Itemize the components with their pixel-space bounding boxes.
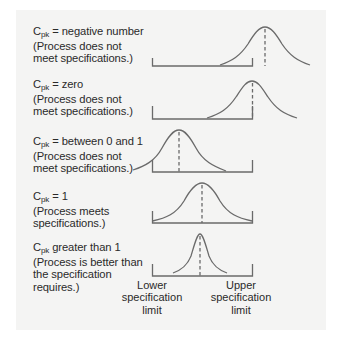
spec-bracket	[153, 160, 253, 172]
spec-bracket	[153, 264, 253, 276]
row-1-distribution	[153, 27, 311, 66]
spec-bracket	[153, 106, 253, 119]
label-line: specification	[112, 291, 192, 303]
row-4-distribution	[153, 183, 253, 223]
label-line: limit	[201, 304, 281, 316]
row-3-distribution	[133, 130, 253, 172]
row-2-distribution	[153, 81, 298, 119]
label-line: specification	[201, 291, 281, 303]
spec-bracket	[153, 58, 253, 66]
label-line: limit	[112, 304, 192, 316]
label-line: Lower	[112, 279, 192, 291]
label-line: Upper	[201, 279, 281, 291]
upper-spec-limit-label: Upper specification limit	[201, 279, 281, 316]
lower-spec-limit-label: Lower specification limit	[112, 279, 192, 316]
row-5-distribution	[153, 234, 253, 276]
